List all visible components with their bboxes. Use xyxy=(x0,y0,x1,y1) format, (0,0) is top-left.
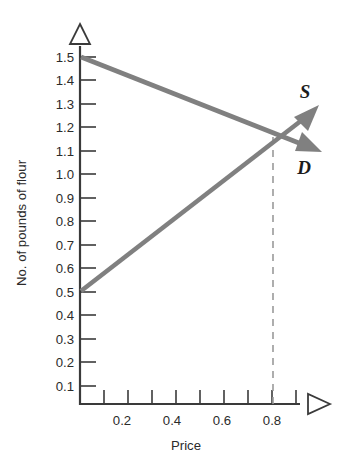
y-tick-label: 0.6 xyxy=(56,261,74,276)
demand-curve-group xyxy=(81,57,322,152)
y-tick-label: 0.4 xyxy=(56,308,74,323)
y-tick-label: 0.2 xyxy=(56,355,74,370)
supply-curve-group xyxy=(81,105,319,291)
triangle-up-outline-icon xyxy=(70,24,90,44)
y-tick-label: 0.1 xyxy=(56,379,74,394)
chart-canvas: 1.5 1.4 1.3 1.2 1.1 1.0 0.9 0.8 0.7 0.6 … xyxy=(0,0,342,459)
y-tick-label: 1.0 xyxy=(56,167,74,182)
y-axis-tick-labels: 1.5 1.4 1.3 1.2 1.1 1.0 0.9 0.8 0.7 0.6 … xyxy=(56,50,74,394)
arrow-up-right-icon xyxy=(294,105,319,131)
y-axis-title: No. of pounds of flour xyxy=(14,159,29,286)
y-tick-label: 0.3 xyxy=(56,332,74,347)
x-axis-ticks xyxy=(104,390,296,404)
axes-group xyxy=(70,24,330,414)
x-axis-title: Price xyxy=(171,438,201,453)
y-tick-label: 1.5 xyxy=(56,50,74,65)
y-tick-label: 0.9 xyxy=(56,191,74,206)
x-tick-label: 0.6 xyxy=(213,413,231,428)
demand-curve-label: D xyxy=(296,157,311,178)
y-tick-label: 1.1 xyxy=(56,144,74,159)
supply-curve-line xyxy=(81,120,302,291)
x-tick-label: 0.2 xyxy=(113,413,131,428)
x-tick-label: 0.4 xyxy=(163,413,181,428)
x-tick-label: 0.8 xyxy=(263,413,281,428)
y-axis-ticks xyxy=(80,57,96,386)
demand-curve-line xyxy=(81,57,304,145)
triangle-right-outline-icon xyxy=(308,394,330,414)
supply-demand-chart: 1.5 1.4 1.3 1.2 1.1 1.0 0.9 0.8 0.7 0.6 … xyxy=(0,0,342,459)
y-tick-label: 0.5 xyxy=(56,285,74,300)
y-tick-label: 1.4 xyxy=(56,73,74,88)
arrow-down-right-icon xyxy=(295,132,322,152)
y-tick-label: 0.8 xyxy=(56,214,74,229)
supply-curve-label: S xyxy=(300,81,311,102)
x-axis-tick-labels: 0.2 0.4 0.6 0.8 xyxy=(113,413,281,428)
y-tick-label: 0.7 xyxy=(56,238,74,253)
y-tick-label: 1.2 xyxy=(56,120,74,135)
y-tick-label: 1.3 xyxy=(56,97,74,112)
